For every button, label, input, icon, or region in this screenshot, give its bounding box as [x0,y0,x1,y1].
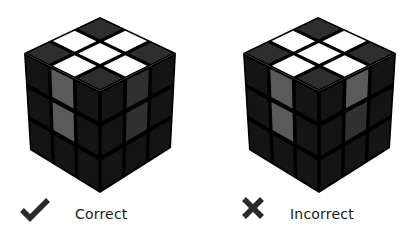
incorrect-label: Incorrect [290,206,354,222]
cube-comparison-figure: Correct Incorrect [0,0,418,236]
cube-illustrations [0,0,418,236]
checkmark-icon [18,196,52,222]
cross-icon [240,195,266,221]
correct-cube-illustration [24,17,176,193]
incorrect-cube-illustration [243,17,396,193]
correct-label: Correct [75,206,128,222]
